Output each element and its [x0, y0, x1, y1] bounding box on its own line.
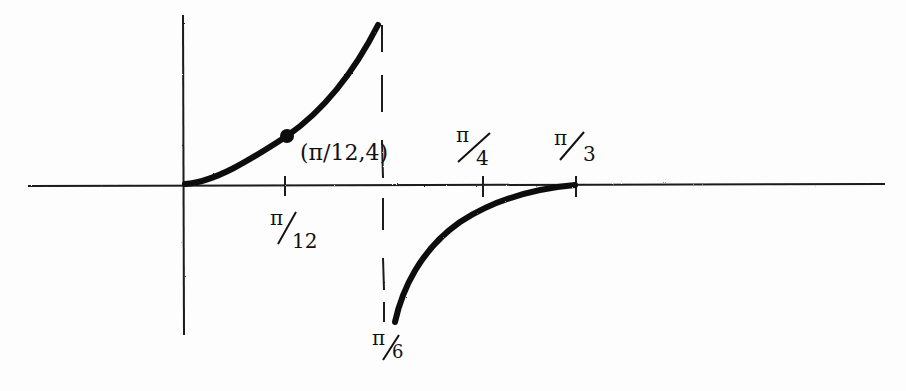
tick-label-pi-6: π 6 [372, 326, 403, 362]
svg-text:π: π [270, 206, 283, 230]
point-marker-pi12-4 [280, 129, 294, 143]
tick-label-pi-3: π 3 [554, 126, 596, 166]
svg-text:3: 3 [583, 142, 596, 166]
curve-right-branch [395, 185, 575, 322]
svg-text:π: π [372, 326, 385, 350]
svg-text:π: π [554, 126, 567, 150]
svg-text:π: π [456, 123, 469, 147]
x-axis [28, 184, 885, 186]
axes [28, 15, 885, 335]
tick-label-pi-4: π 4 [456, 123, 490, 170]
function-graph: (π/12,4) π 12 π 6 π 4 π 3 [0, 0, 906, 391]
point-label: (π/12,4) [300, 140, 388, 165]
svg-text:4: 4 [476, 146, 489, 170]
svg-text:12: 12 [292, 229, 317, 253]
y-axis [183, 15, 184, 335]
svg-text:6: 6 [392, 341, 403, 362]
tick-label-pi-12: π 12 [270, 206, 317, 253]
asymptote-pi-6 [382, 25, 384, 322]
